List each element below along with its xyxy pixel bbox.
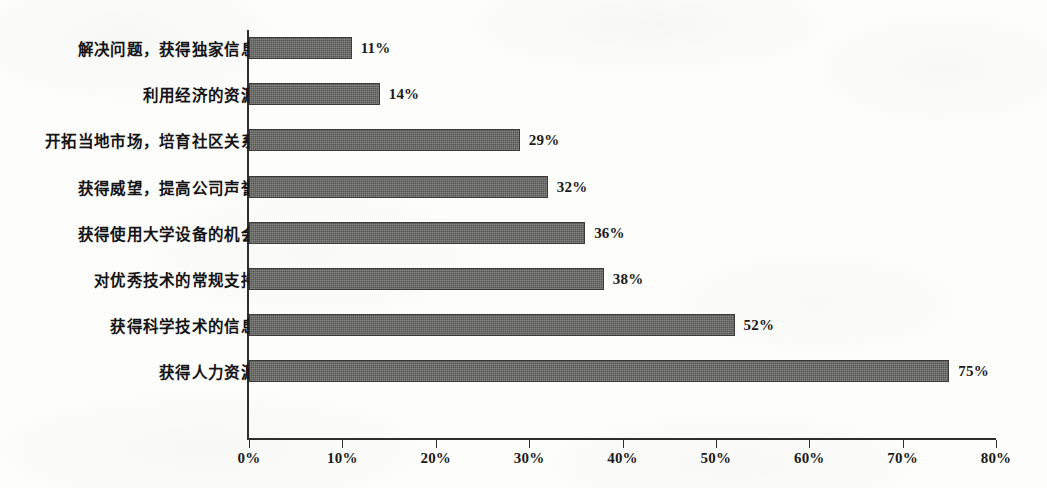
bar-value-label: 32%	[557, 178, 588, 195]
bar-row: 解决问题，获得独家信息11%	[0, 37, 1047, 59]
bar-value-label: 38%	[613, 271, 644, 288]
bar-row: 利用经济的资源14%	[0, 83, 1047, 105]
x-axis-tick-label: 20%	[420, 450, 451, 467]
x-axis-tick-label: 60%	[794, 450, 825, 467]
x-axis-tick-label: 40%	[607, 450, 638, 467]
category-label: 获得使用大学设备的机会	[78, 222, 257, 244]
category-label: 开拓当地市场，培育社区关系	[45, 129, 257, 151]
category-label: 获得威望，提高公司声誉	[78, 176, 257, 198]
category-label: 利用经济的资源	[143, 83, 257, 105]
x-axis-tick	[996, 440, 997, 448]
bar-value-label: 75%	[958, 363, 989, 380]
category-label: 获得科学技术的信息	[110, 314, 257, 336]
bar-value-label: 14%	[389, 86, 420, 103]
x-axis-tick	[529, 440, 530, 448]
x-axis-tick	[342, 440, 343, 448]
x-axis-tick	[436, 440, 437, 448]
bar	[249, 360, 949, 382]
bar-value-label: 36%	[594, 224, 625, 241]
x-axis-tick-label: 30%	[514, 450, 545, 467]
bar	[249, 37, 352, 59]
bar-row: 获得威望，提高公司声誉32%	[0, 176, 1047, 198]
bar-row: 获得科学技术的信息52%	[0, 314, 1047, 336]
bar-row: 获得人力资源75%	[0, 360, 1047, 382]
x-axis-tick-label: 80%	[981, 450, 1012, 467]
x-axis-tick-label: 0%	[238, 450, 261, 467]
x-axis-tick	[249, 440, 250, 448]
bar	[249, 268, 604, 290]
x-axis-tick	[903, 440, 904, 448]
category-label: 获得人力资源	[159, 360, 257, 382]
category-label: 对优秀技术的常规支持	[94, 268, 257, 290]
bar	[249, 129, 520, 151]
x-axis-tick-label: 10%	[327, 450, 358, 467]
bar-value-label: 52%	[744, 317, 775, 334]
x-axis-tick	[716, 440, 717, 448]
bar	[249, 314, 735, 336]
x-axis-tick	[623, 440, 624, 448]
x-axis-tick	[809, 440, 810, 448]
category-label: 解决问题，获得独家信息	[78, 37, 257, 59]
bar	[249, 222, 585, 244]
bar	[249, 83, 380, 105]
bar-value-label: 11%	[361, 40, 391, 57]
x-axis-line	[247, 438, 996, 440]
x-axis-tick-label: 50%	[701, 450, 732, 467]
horizontal-bar-chart: 解决问题，获得独家信息11%利用经济的资源14%开拓当地市场，培育社区关系29%…	[0, 0, 1047, 488]
bar-value-label: 29%	[529, 132, 560, 149]
x-axis-tick-label: 70%	[887, 450, 918, 467]
bar	[249, 176, 548, 198]
bar-row: 开拓当地市场，培育社区关系29%	[0, 129, 1047, 151]
bar-row: 获得使用大学设备的机会36%	[0, 222, 1047, 244]
bar-row: 对优秀技术的常规支持38%	[0, 268, 1047, 290]
